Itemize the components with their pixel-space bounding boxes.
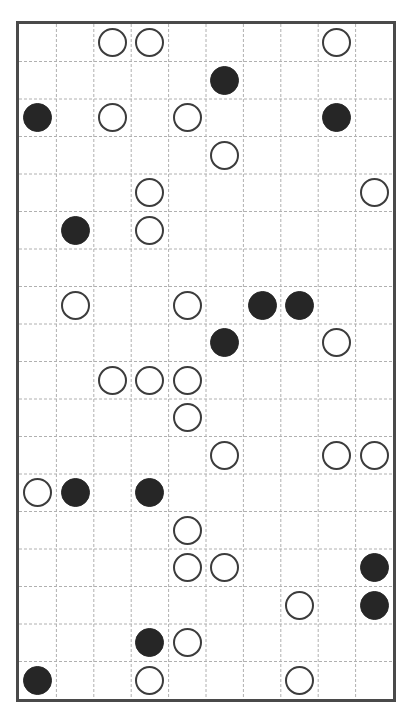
board-cell[interactable]: [131, 587, 168, 625]
board-cell[interactable]: [131, 624, 168, 662]
board-cell[interactable]: [131, 512, 168, 550]
board-cell[interactable]: [94, 137, 131, 175]
board-cell[interactable]: [243, 437, 280, 475]
board-cell[interactable]: [281, 324, 318, 362]
board-cell[interactable]: [56, 662, 93, 700]
board-cell[interactable]: [206, 249, 243, 287]
board-cell[interactable]: [318, 662, 355, 700]
board-cell[interactable]: [19, 474, 56, 512]
board-cell[interactable]: [281, 549, 318, 587]
board-cell[interactable]: [19, 99, 56, 137]
board-cell[interactable]: [281, 249, 318, 287]
board-cell[interactable]: [356, 99, 393, 137]
board-cell[interactable]: [281, 137, 318, 175]
board-cell[interactable]: [281, 662, 318, 700]
board-cell[interactable]: [243, 324, 280, 362]
board-cell[interactable]: [19, 587, 56, 625]
board-cell[interactable]: [94, 99, 131, 137]
board-cell[interactable]: [94, 62, 131, 100]
board-cell[interactable]: [356, 549, 393, 587]
board-cell[interactable]: [56, 24, 93, 62]
board-cell[interactable]: [206, 99, 243, 137]
board-cell[interactable]: [318, 24, 355, 62]
board-cell[interactable]: [131, 287, 168, 325]
board-cell[interactable]: [131, 249, 168, 287]
board-cell[interactable]: [131, 174, 168, 212]
board-cell[interactable]: [56, 137, 93, 175]
board-cell[interactable]: [281, 62, 318, 100]
board-cell[interactable]: [19, 249, 56, 287]
board-cell[interactable]: [169, 212, 206, 250]
board-cell[interactable]: [206, 587, 243, 625]
board-cell[interactable]: [281, 512, 318, 550]
board-cell[interactable]: [318, 587, 355, 625]
board-cell[interactable]: [281, 474, 318, 512]
board-cell[interactable]: [318, 399, 355, 437]
board-cell[interactable]: [281, 174, 318, 212]
board-cell[interactable]: [318, 324, 355, 362]
board-cell[interactable]: [356, 324, 393, 362]
board-cell[interactable]: [169, 24, 206, 62]
board-cell[interactable]: [206, 212, 243, 250]
board-cell[interactable]: [94, 249, 131, 287]
board-cell[interactable]: [169, 174, 206, 212]
board-cell[interactable]: [19, 24, 56, 62]
board-cell[interactable]: [206, 512, 243, 550]
board-cell[interactable]: [281, 287, 318, 325]
board-cell[interactable]: [19, 437, 56, 475]
board-cell[interactable]: [56, 437, 93, 475]
board-cell[interactable]: [243, 662, 280, 700]
board-cell[interactable]: [94, 549, 131, 587]
board-cell[interactable]: [281, 24, 318, 62]
board-cell[interactable]: [19, 324, 56, 362]
board-cell[interactable]: [356, 212, 393, 250]
board-cell[interactable]: [243, 174, 280, 212]
board-cell[interactable]: [56, 587, 93, 625]
board-cell[interactable]: [356, 587, 393, 625]
board-cell[interactable]: [318, 624, 355, 662]
board-cell[interactable]: [169, 362, 206, 400]
board-cell[interactable]: [56, 324, 93, 362]
board-cell[interactable]: [243, 62, 280, 100]
board-cell[interactable]: [94, 399, 131, 437]
board-cell[interactable]: [56, 474, 93, 512]
board-cell[interactable]: [131, 662, 168, 700]
board-cell[interactable]: [19, 137, 56, 175]
board-cell[interactable]: [56, 99, 93, 137]
board-cell[interactable]: [169, 437, 206, 475]
board-cell[interactable]: [169, 624, 206, 662]
board-cell[interactable]: [356, 437, 393, 475]
board-cell[interactable]: [169, 662, 206, 700]
board-cell[interactable]: [19, 549, 56, 587]
board-cell[interactable]: [281, 587, 318, 625]
board-cell[interactable]: [206, 324, 243, 362]
board-cell[interactable]: [94, 362, 131, 400]
board-cell[interactable]: [169, 474, 206, 512]
board-cell[interactable]: [356, 62, 393, 100]
board-cell[interactable]: [206, 287, 243, 325]
board-cell[interactable]: [94, 662, 131, 700]
board-cell[interactable]: [206, 174, 243, 212]
board-cell[interactable]: [56, 249, 93, 287]
board-cell[interactable]: [318, 137, 355, 175]
board-cell[interactable]: [356, 287, 393, 325]
board-cell[interactable]: [169, 512, 206, 550]
board-cell[interactable]: [19, 62, 56, 100]
board-cell[interactable]: [94, 587, 131, 625]
board-cell[interactable]: [94, 287, 131, 325]
board-cell[interactable]: [281, 212, 318, 250]
board-cell[interactable]: [356, 249, 393, 287]
board-cell[interactable]: [94, 624, 131, 662]
board-cell[interactable]: [131, 324, 168, 362]
board-cell[interactable]: [131, 212, 168, 250]
board-cell[interactable]: [206, 437, 243, 475]
board-cell[interactable]: [56, 624, 93, 662]
board-cell[interactable]: [281, 624, 318, 662]
board-cell[interactable]: [206, 662, 243, 700]
board-cell[interactable]: [94, 512, 131, 550]
board-cell[interactable]: [131, 362, 168, 400]
board-cell[interactable]: [318, 287, 355, 325]
board-cell[interactable]: [131, 549, 168, 587]
board-cell[interactable]: [318, 99, 355, 137]
board-cell[interactable]: [243, 512, 280, 550]
